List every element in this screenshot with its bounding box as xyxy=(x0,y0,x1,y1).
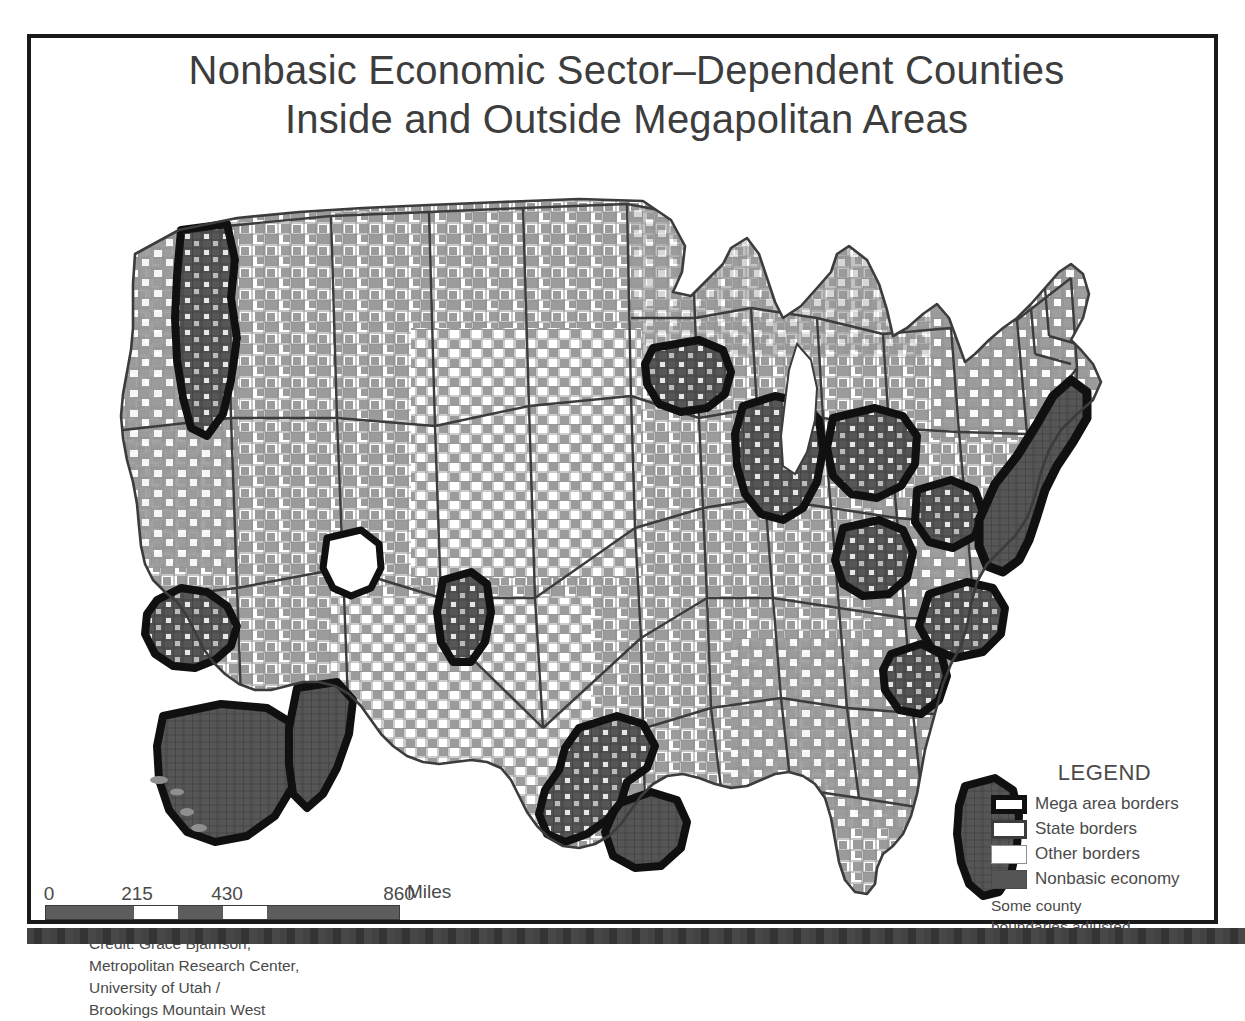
mega-area-border-swatch-icon xyxy=(991,795,1027,814)
legend-item-mega-area-borders: Mega area borders xyxy=(991,794,1206,814)
scale-segment-1 xyxy=(46,906,134,919)
legend-item-state-borders: State borders xyxy=(991,819,1206,839)
title-line-2: Inside and Outside Megapolitan Areas xyxy=(31,95,1222,144)
legend: LEGEND Mega area borders State borders O… xyxy=(991,760,1206,938)
scale-segment-4 xyxy=(223,906,267,919)
legend-item-other-borders: Other borders xyxy=(991,844,1206,864)
scale-tick-430: 430 xyxy=(211,883,243,905)
mega-area-front-range xyxy=(437,572,491,662)
legend-heading: LEGEND xyxy=(1003,760,1206,786)
title-line-1: Nonbasic Economic Sector–Dependent Count… xyxy=(31,46,1222,95)
legend-label-other: Other borders xyxy=(1035,844,1140,864)
scale-segment-3 xyxy=(178,906,222,919)
scale-segment-2 xyxy=(134,906,178,919)
mega-area-wasatch-front xyxy=(323,530,381,596)
legend-note-line-1: Some county xyxy=(991,896,1206,917)
legend-label-state: State borders xyxy=(1035,819,1137,839)
mega-area-ohio-valley xyxy=(835,520,913,596)
other-border-swatch-icon xyxy=(991,845,1027,864)
scale-tick-0: 0 xyxy=(44,883,55,905)
map-frame: Nonbasic Economic Sector–Dependent Count… xyxy=(27,34,1218,924)
legend-label-mega: Mega area borders xyxy=(1035,794,1179,814)
bottom-accent-bar xyxy=(27,928,1245,944)
scale-bar: 0 215 430 860 Miles xyxy=(45,883,445,920)
legend-item-nonbasic-economy: Nonbasic economy xyxy=(991,869,1206,889)
credit-line-4: Brookings Mountain West xyxy=(89,999,299,1021)
mega-area-steel-corridor xyxy=(915,480,983,548)
mega-area-michigan-corridor xyxy=(827,408,917,498)
map-canvas[interactable]: 0 215 430 860 Miles Credit: Grace Bjarns… xyxy=(31,168,1222,928)
scale-tick-labels: 0 215 430 860 xyxy=(45,883,445,905)
mega-area-northern-california xyxy=(145,588,237,668)
mega-area-twin-cities xyxy=(645,340,731,412)
mega-area-southern-california xyxy=(157,704,299,842)
credit-line-2: Metropolitan Research Center, xyxy=(89,955,299,977)
scale-units-label: Miles xyxy=(407,881,451,903)
state-border-swatch-icon xyxy=(991,820,1027,839)
scale-segment-5 xyxy=(267,906,399,919)
scale-bar-segments xyxy=(45,905,400,920)
mega-area-cascadia xyxy=(175,224,237,436)
bottom-bar-texture xyxy=(27,928,1245,944)
credit-block: Credit: Grace Bjarnson, Metropolitan Res… xyxy=(89,933,299,1021)
mega-area-valley-of-the-sun xyxy=(289,682,353,808)
scale-tick-215: 215 xyxy=(121,883,153,905)
page-title: Nonbasic Economic Sector–Dependent Count… xyxy=(31,46,1222,144)
nonbasic-economy-swatch-icon xyxy=(991,870,1027,889)
legend-label-nonbasic: Nonbasic economy xyxy=(1035,869,1180,889)
credit-line-3: University of Utah / xyxy=(89,977,299,999)
